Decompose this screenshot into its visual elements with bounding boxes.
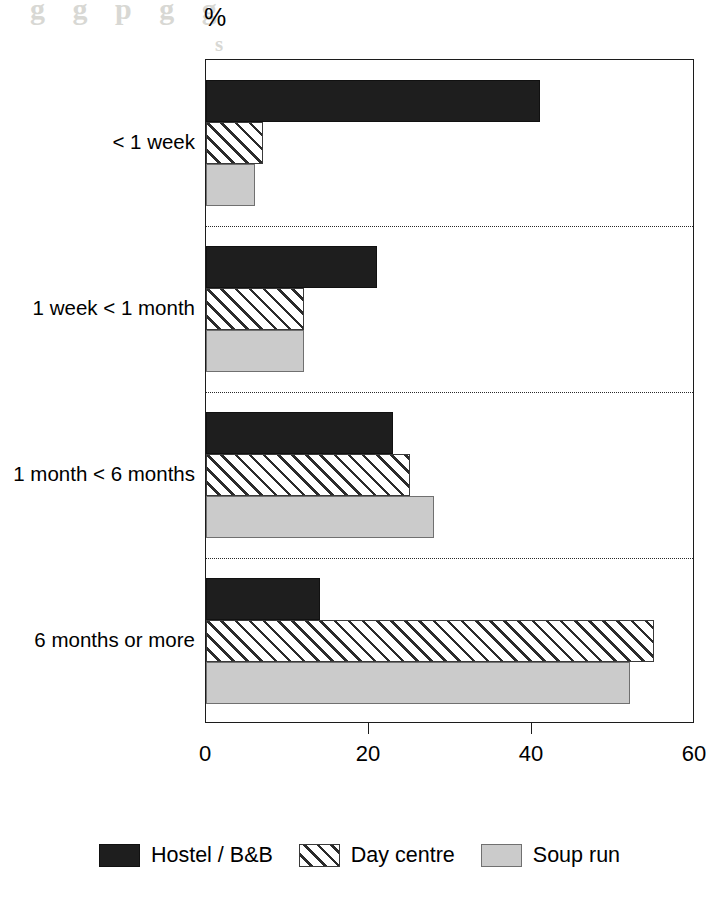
bar-hostel-0 bbox=[206, 80, 540, 122]
chart-page: g g p g g s d s % < 1 week1 week < 1 mon… bbox=[0, 0, 719, 899]
plot-area bbox=[205, 59, 694, 723]
legend-swatch-daycentre-icon bbox=[299, 844, 340, 867]
bar-hostel-2 bbox=[206, 412, 393, 454]
x-tick-label-40: 40 bbox=[491, 741, 571, 767]
legend-swatch-hostel-icon bbox=[99, 844, 140, 867]
bar-souprun-3 bbox=[206, 662, 630, 704]
x-tick-20 bbox=[368, 723, 369, 734]
bar-souprun-2 bbox=[206, 496, 434, 538]
bar-daycentre-0 bbox=[206, 122, 263, 164]
bar-souprun-0 bbox=[206, 164, 255, 206]
bar-daycentre-2 bbox=[206, 454, 410, 496]
bars-layer bbox=[206, 60, 693, 722]
legend-swatch-souprun-icon bbox=[481, 844, 522, 867]
bar-hostel-3 bbox=[206, 578, 320, 620]
x-tick-40 bbox=[531, 723, 532, 734]
x-tick-label-20: 20 bbox=[328, 741, 408, 767]
legend-entry-daycentre[interactable]: Day centre bbox=[299, 843, 455, 868]
scan-bleed-artifact: s bbox=[215, 32, 230, 57]
bar-daycentre-3 bbox=[206, 620, 654, 662]
x-tick-label-0: 0 bbox=[165, 741, 245, 767]
legend-label-hostel: Hostel / B&B bbox=[151, 843, 273, 868]
category-label-2: 1 month < 6 months bbox=[13, 462, 195, 486]
legend: Hostel / B&BDay centreSoup run bbox=[0, 838, 719, 872]
category-label-0: < 1 week bbox=[112, 130, 195, 154]
legend-label-daycentre: Day centre bbox=[351, 843, 455, 868]
legend-entry-souprun[interactable]: Soup run bbox=[481, 843, 620, 868]
group-separator-2 bbox=[206, 392, 693, 393]
category-label-1: 1 week < 1 month bbox=[33, 296, 195, 320]
legend-entry-hostel[interactable]: Hostel / B&B bbox=[99, 843, 273, 868]
bar-daycentre-1 bbox=[206, 288, 304, 330]
x-tick-label-60: 60 bbox=[654, 741, 719, 767]
category-label-3: 6 months or more bbox=[34, 628, 195, 652]
bar-souprun-1 bbox=[206, 330, 304, 372]
scan-bleed-artifact: g g p g g bbox=[30, 0, 227, 26]
axis-unit-label: % bbox=[204, 2, 226, 32]
group-separator-1 bbox=[206, 226, 693, 227]
legend-label-souprun: Soup run bbox=[533, 843, 620, 868]
bar-hostel-1 bbox=[206, 246, 377, 288]
group-separator-3 bbox=[206, 558, 693, 559]
